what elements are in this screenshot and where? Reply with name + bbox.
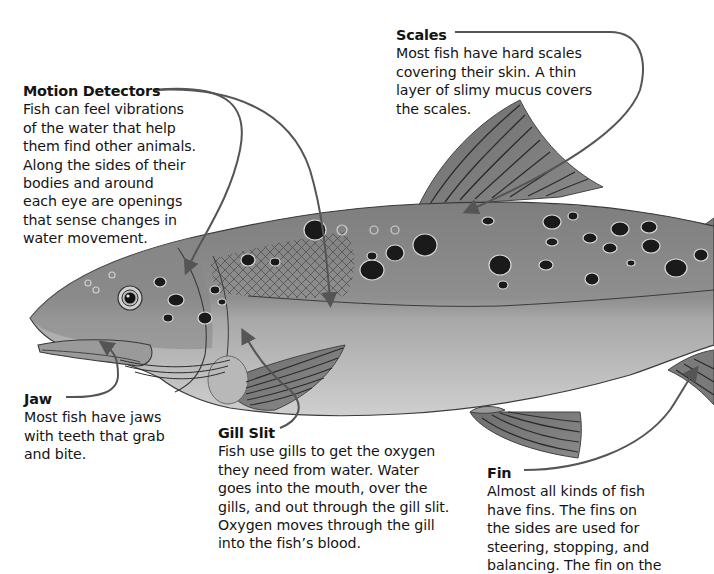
callout-title: Motion Detectors: [23, 82, 233, 100]
callout-title: Scales: [396, 26, 626, 44]
callout-fin: Fin Almost all kinds of fish have fins. …: [487, 464, 714, 574]
callout-body: Fish can feel vibrations of the water th…: [23, 100, 233, 247]
callout-motion-detectors: Motion Detectors Fish can feel vibration…: [23, 82, 233, 248]
callout-title: Gill Slit: [218, 424, 488, 442]
callout-title: Jaw: [24, 390, 224, 408]
callout-body: Most fish have hard scales covering thei…: [396, 44, 626, 118]
callout-jaw: Jaw Most fish have jaws with teeth that …: [24, 390, 224, 464]
jaw: [38, 340, 152, 366]
callout-body: Almost all kinds of fish have fins. The …: [487, 482, 714, 574]
callout-body: Fish use gills to get the oxygen they ne…: [218, 442, 488, 552]
callout-gill-slit: Gill Slit Fish use gills to get the oxyg…: [218, 424, 488, 553]
callout-scales: Scales Most fish have hard scales coveri…: [396, 26, 626, 118]
callout-body: Most fish have jaws with teeth that grab…: [24, 408, 224, 463]
eye: [118, 286, 142, 310]
callout-title: Fin: [487, 464, 714, 482]
